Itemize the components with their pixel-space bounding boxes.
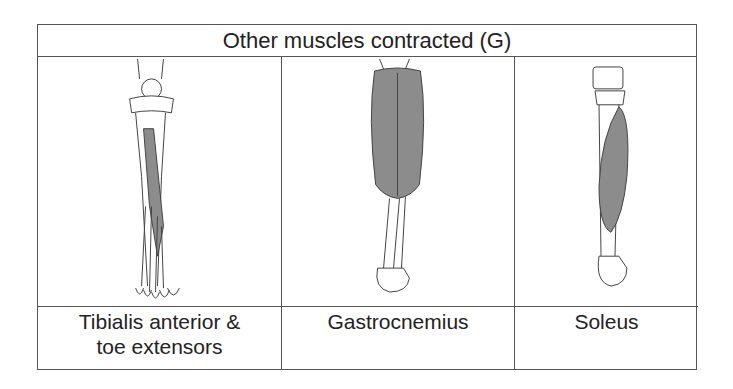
muscles-table: Other muscles contracted (G) Tibialis an… [37, 24, 697, 370]
column-label: Tibialis anterior & toe extensors [38, 309, 281, 359]
column-gastrocnemius: Gastrocnemius [282, 57, 515, 369]
gastrocnemius-leg-illustration [282, 57, 514, 307]
tibialis-anterior-leg-illustration [38, 57, 281, 307]
column-label: Soleus [515, 309, 698, 334]
column-soleus: Soleus [515, 57, 698, 369]
column-label: Gastrocnemius [282, 309, 514, 334]
table-title: Other muscles contracted (G) [38, 25, 696, 57]
soleus-leg-illustration [515, 57, 698, 307]
column-tibialis-anterior: Tibialis anterior & toe extensors [38, 57, 282, 369]
